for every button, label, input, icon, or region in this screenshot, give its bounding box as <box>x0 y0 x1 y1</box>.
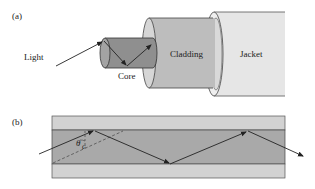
fiber-optic-diagram: (a) Light Core Cladding Jacket (b) <box>0 0 315 189</box>
cladding-label: Cladding <box>170 49 203 59</box>
core-label: Core <box>118 71 136 81</box>
light-label: Light <box>24 52 44 62</box>
theta-subscript: c <box>82 142 86 151</box>
light-input-arrow <box>56 42 102 66</box>
jacket-label: Jacket <box>240 49 263 59</box>
panel-a-label: (a) <box>12 11 22 21</box>
core <box>100 38 157 68</box>
theta-symbol: θ <box>76 138 81 148</box>
panel-b-label: (b) <box>12 117 23 127</box>
waveguide <box>52 116 285 178</box>
